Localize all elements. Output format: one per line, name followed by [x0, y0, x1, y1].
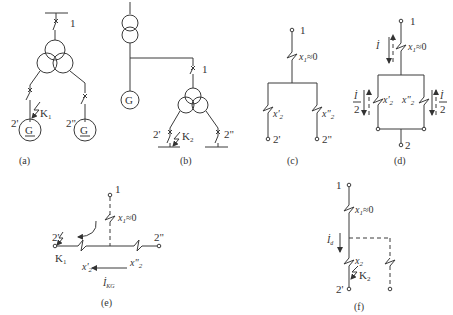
- x2p-label: x'2: [382, 94, 394, 107]
- x2pp-label: x"2: [129, 257, 143, 270]
- caption-c: (c): [287, 155, 298, 167]
- generator-icon: G: [19, 119, 41, 141]
- svg-text:G: G: [80, 124, 88, 136]
- caption-b: (b): [180, 155, 192, 167]
- x1-label: x1≈0: [407, 41, 426, 54]
- breaker-icon: [26, 85, 32, 122]
- reactance-icon: [396, 43, 406, 51]
- terminal-node: [315, 137, 319, 141]
- node-2p-label: 2': [153, 128, 161, 140]
- three-winding-transformer-icon: [178, 88, 208, 113]
- node-2p-label: 2': [336, 283, 344, 295]
- reactance-icon: [312, 105, 322, 113]
- node-1-label: 1: [70, 17, 76, 29]
- generator-icon: G: [121, 91, 139, 109]
- panel-a: 1 K1 2' 2": [11, 13, 96, 167]
- terminal-node: [290, 28, 294, 32]
- fault-lightning-icon: [32, 102, 40, 118]
- caption-f: (f): [354, 301, 364, 313]
- fault-lightning-icon: [351, 266, 358, 279]
- terminal-node: [399, 143, 403, 147]
- reactance-icon: [385, 258, 395, 266]
- node-2p-label: 2': [273, 133, 281, 145]
- x2p-label: x'2: [272, 108, 284, 121]
- terminal-node: [108, 193, 112, 197]
- node-2-label: 2: [405, 139, 411, 151]
- node-1-label: 1: [410, 15, 416, 27]
- node-1-label: 1: [336, 179, 342, 191]
- reactance-icon: [344, 258, 354, 266]
- node-1-label: 1: [115, 183, 121, 195]
- reactance-icon: [419, 97, 429, 105]
- breaker-icon: [215, 128, 220, 147]
- terminal-node: [53, 244, 57, 248]
- panel-b: G 1: [121, 2, 234, 167]
- node-2pp-label: 2": [154, 231, 164, 243]
- reactance-icon: [263, 105, 273, 113]
- panel-d: 1 x1≈0 İ x'2 x"2 İ 2 İ 2 2 (d): [353, 15, 447, 167]
- svg-text:G: G: [125, 94, 133, 106]
- three-winding-transformer-icon: [37, 40, 73, 73]
- node-2p-label: 2': [52, 231, 60, 243]
- reactance-icon: [344, 205, 354, 213]
- current-I-label: İ: [375, 40, 380, 51]
- breaker-icon: [81, 83, 87, 122]
- breaker-icon: [167, 128, 172, 147]
- two-winding-transformer-icon: [122, 15, 138, 43]
- panel-f: 1 x1≈0 İd x2 K2 2' (f): [326, 179, 395, 313]
- caption-e: (e): [101, 297, 112, 309]
- terminal-node: [399, 19, 403, 23]
- x1-label: x1≈0: [298, 51, 317, 64]
- node-1-label: 1: [300, 24, 306, 36]
- fault-label: K1: [40, 107, 52, 121]
- current-Id-label: İd: [326, 234, 334, 246]
- fault-lightning-icon: [173, 132, 180, 146]
- terminal-node: [347, 183, 351, 187]
- terminal-node: [347, 287, 351, 291]
- node-2pp-label: 2": [224, 128, 234, 140]
- x1-label: x1≈0: [117, 212, 136, 225]
- transformer-fault-diagram: 1 K1 2' 2": [0, 0, 453, 315]
- terminal-node: [388, 287, 392, 291]
- x2p-label: x'2: [81, 261, 93, 274]
- breaker-icon: [53, 19, 58, 30]
- x1-label: x1≈0: [354, 204, 373, 217]
- reactance-icon: [105, 214, 115, 222]
- current-IKG-label: İKG: [102, 277, 115, 289]
- x2-label: x2: [354, 255, 363, 268]
- half-current-label-right: İ: [439, 90, 444, 101]
- caption-d: (d): [394, 155, 406, 167]
- reactance-icon: [78, 240, 86, 251]
- panel-e: 1 x1≈0 2' 2" K1 x'2 x"2 İKG (e): [52, 183, 164, 309]
- reactance-icon: [373, 97, 383, 105]
- fault-label: K2: [359, 269, 371, 283]
- caption-a: (a): [19, 155, 30, 167]
- svg-text:2: 2: [440, 103, 446, 115]
- half-current-label-left: İ: [353, 90, 358, 101]
- terminal-node: [157, 244, 161, 248]
- generator-icon: G: [74, 119, 96, 141]
- fault-label: K2: [182, 130, 194, 144]
- reactance-icon: [287, 52, 297, 60]
- breaker-icon: [190, 66, 195, 74]
- x2pp-label: x"2: [321, 108, 335, 121]
- curved-arrow-icon: [78, 221, 96, 237]
- node-2p-label: 2': [11, 117, 19, 129]
- svg-text:G: G: [25, 124, 33, 136]
- terminal-node: [266, 137, 270, 141]
- panel-c: 1 x1≈0 x'2 x"2 2' 2" (c): [263, 24, 335, 167]
- reactance-icon: [134, 240, 142, 251]
- node-1-label: 1: [202, 63, 208, 75]
- x2pp-label: x"2: [401, 94, 415, 107]
- node-2pp-label: 2": [322, 133, 332, 145]
- fault-label: K1: [55, 252, 67, 266]
- svg-text:2: 2: [354, 103, 360, 115]
